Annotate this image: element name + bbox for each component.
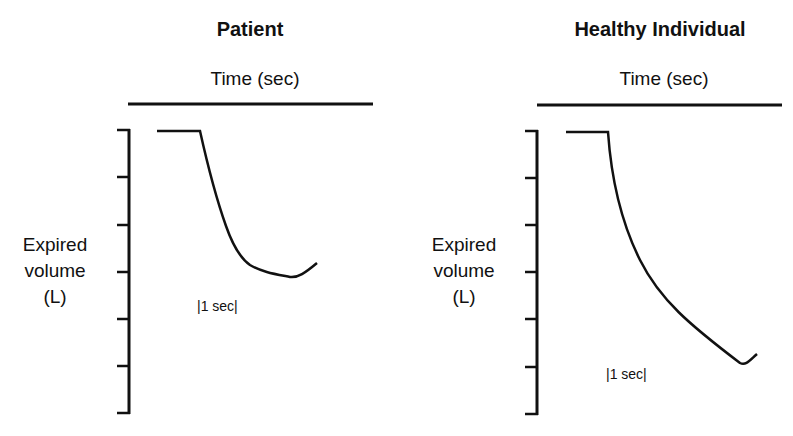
patient-axes [117, 104, 373, 414]
healthy-axes [525, 105, 782, 415]
healthy-volume-curve [566, 132, 757, 364]
patient-volume-curve [157, 131, 317, 277]
spirometry-plots [0, 0, 793, 436]
